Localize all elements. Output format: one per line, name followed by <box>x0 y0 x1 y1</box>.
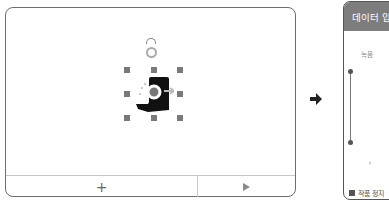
data-input-panel: 데이터 입 녹음 작품 정지 <box>343 1 389 200</box>
recording-label: 녹음 <box>361 49 373 59</box>
add-sprite-button[interactable]: + <box>6 176 198 197</box>
resize-handle-bottom-right[interactable] <box>177 115 183 121</box>
resize-handle-left[interactable] <box>124 91 130 97</box>
mini-play-icon[interactable] <box>369 161 372 165</box>
rotation-handle[interactable] <box>146 47 157 58</box>
resize-handle-right[interactable] <box>177 91 183 97</box>
arrow-right-icon <box>310 93 322 105</box>
hand-holding-phone-icon[interactable] <box>134 74 174 116</box>
stage-canvas[interactable] <box>6 8 295 175</box>
panel-title: 데이터 입 <box>344 2 389 31</box>
resize-handle-top-right[interactable] <box>177 67 183 73</box>
rotate-arrow-icon <box>146 38 156 44</box>
resize-handle-top[interactable] <box>151 67 157 73</box>
play-icon <box>243 183 250 191</box>
stop-icon <box>349 190 355 196</box>
resize-handle-bottom-left[interactable] <box>124 115 130 121</box>
stop-label: 작품 정지 <box>358 188 384 198</box>
resize-handle-top-left[interactable] <box>124 67 130 73</box>
stage-editor: + <box>5 7 296 197</box>
play-button[interactable] <box>198 176 295 197</box>
track-end-point[interactable] <box>348 140 353 145</box>
recording-track <box>350 71 351 142</box>
stage-toolbar: + <box>6 175 295 197</box>
stop-project-button[interactable]: 작품 정지 <box>349 188 384 198</box>
track-start-point[interactable] <box>348 69 353 74</box>
